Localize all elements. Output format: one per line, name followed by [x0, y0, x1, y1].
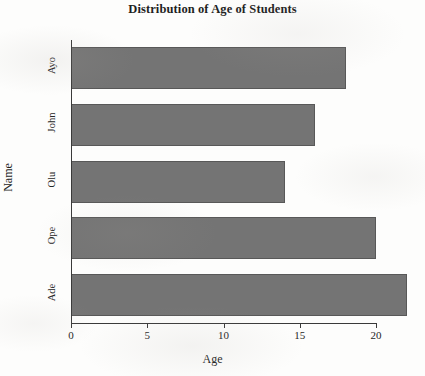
- y-axis-label-ayo: Ayo: [46, 49, 57, 83]
- y-axis-line: [71, 40, 72, 324]
- x-tick-label-10: 10: [204, 329, 244, 341]
- x-tick-label-0: 0: [51, 329, 91, 341]
- x-tick-label-5: 5: [127, 329, 167, 341]
- bar-ade[interactable]: [71, 274, 407, 316]
- bar-john[interactable]: [71, 104, 315, 146]
- chart-figure: Distribution of Age of Students 05101520…: [0, 0, 425, 376]
- y-axis-label-john: John: [46, 105, 57, 139]
- bar-ope[interactable]: [71, 217, 376, 259]
- plot-area: [71, 40, 376, 323]
- bar-olu[interactable]: [71, 161, 285, 203]
- x-tick-label-15: 15: [280, 329, 320, 341]
- x-axis-title: Age: [0, 352, 425, 367]
- x-tick-5: [147, 323, 148, 328]
- y-axis-label-olu: Olu: [46, 162, 57, 196]
- y-axis-label-ope: Ope: [46, 219, 57, 253]
- y-axis-title: Name: [1, 148, 16, 208]
- x-tick-0: [71, 323, 72, 328]
- y-axis-label-ade: Ade: [46, 275, 57, 309]
- x-tick-label-20: 20: [356, 329, 396, 341]
- bar-ayo[interactable]: [71, 47, 346, 89]
- x-tick-20: [376, 323, 377, 328]
- chart-title: Distribution of Age of Students: [0, 2, 425, 17]
- x-tick-10: [224, 323, 225, 328]
- x-tick-15: [300, 323, 301, 328]
